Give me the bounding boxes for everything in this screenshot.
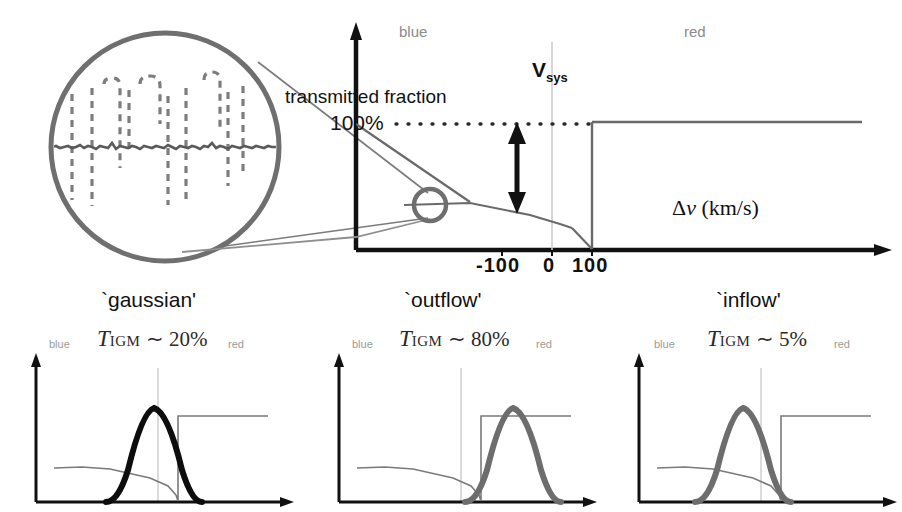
panel-title-inflow: `inflow' [716, 288, 781, 312]
tigm-sub-outflow: IGM [412, 333, 443, 349]
tigm-relation-inflow: ∼ [756, 327, 774, 351]
tigm-symbol-inflow: T [707, 326, 720, 351]
panel1-x-arrowhead [280, 497, 294, 507]
vsys-label: Vsys [532, 58, 568, 85]
tigm-relation-outflow: ∼ [448, 327, 466, 351]
vsys-subscript: sys [546, 70, 568, 85]
vsys-letter: V [532, 58, 546, 81]
deficit-arrow-head-up [508, 122, 526, 144]
panel3-y-arrowhead [634, 353, 644, 367]
tigm-sub-inflow: IGM [720, 333, 751, 349]
panel-red-outflow: red [536, 338, 552, 350]
x-tick-label-minus100: -100 [476, 254, 520, 277]
magnified-lyman-alpha-forest [51, 33, 428, 261]
panel1-transmission-curve [54, 416, 268, 501]
panel-blue-gaussian: blue [49, 338, 70, 350]
panel-chart-inflow [613, 350, 902, 510]
panel3-gaussian-profile [695, 408, 791, 502]
panel3-transmission-step [779, 416, 871, 501]
x-axis-arrowhead [874, 244, 892, 256]
x-axis-v: v [686, 195, 696, 220]
panel3-x-arrowhead [883, 497, 897, 507]
tigm-symbol-gaussian: T [97, 326, 110, 351]
x-axis-delta: Δ [672, 195, 686, 220]
transmission-drop [572, 228, 592, 249]
x-tick-label-plus100: 100 [572, 254, 608, 277]
panel-blue-outflow: blue [352, 338, 373, 350]
panel-red-inflow: red [834, 338, 850, 350]
panel1-gaussian-profile [106, 408, 202, 502]
y-axis-arrowhead [350, 22, 362, 40]
panel2-x-arrowhead [583, 497, 597, 507]
panel3-transmission-curve [657, 416, 871, 501]
tigm-sub-gaussian: IGM [110, 333, 141, 349]
tigm-relation-gaussian: ∼ [146, 327, 164, 351]
tigm-value-inflow: 5% [779, 327, 807, 351]
label-red-main: red [684, 23, 706, 40]
panel-tigm-outflow: TIGM ∼ 80% [399, 326, 509, 352]
main-diagram-svg [0, 0, 902, 285]
panel-chart-outflow [313, 350, 603, 510]
x-tick-label-zero: 0 [543, 254, 555, 277]
tigm-value-outflow: 80% [471, 327, 510, 351]
panel-title-gaussian: `gaussian' [101, 288, 196, 312]
figure-root: blue red transmitted fraction 100% Vsys … [0, 0, 902, 512]
y-axis-title: transmitted fraction [285, 86, 447, 108]
transmission-plateau [404, 203, 572, 228]
y-tick-label-100pct: 100% [330, 111, 384, 135]
panel-tigm-inflow: TIGM ∼ 5% [707, 326, 807, 352]
transmission-deficit-arrow [508, 122, 526, 214]
x-axis-title: Δv (km/s) [672, 195, 759, 221]
panel2-gaussian-profile [465, 408, 561, 502]
label-blue-main: blue [399, 23, 427, 40]
panel-blue-inflow: blue [654, 338, 675, 350]
x-axis-units: (km/s) [701, 195, 758, 220]
tigm-symbol-outflow: T [399, 326, 412, 351]
panel-title-outflow: `outflow' [404, 288, 482, 312]
panel-tigm-gaussian: TIGM ∼ 20% [97, 326, 207, 352]
transmission-blue-wing [356, 124, 470, 202]
tigm-value-gaussian: 20% [169, 327, 208, 351]
panel1-y-arrowhead [31, 353, 41, 367]
panel-chart-gaussian [10, 350, 300, 510]
panel2-y-arrowhead [334, 353, 344, 367]
panel-red-gaussian: red [228, 338, 244, 350]
